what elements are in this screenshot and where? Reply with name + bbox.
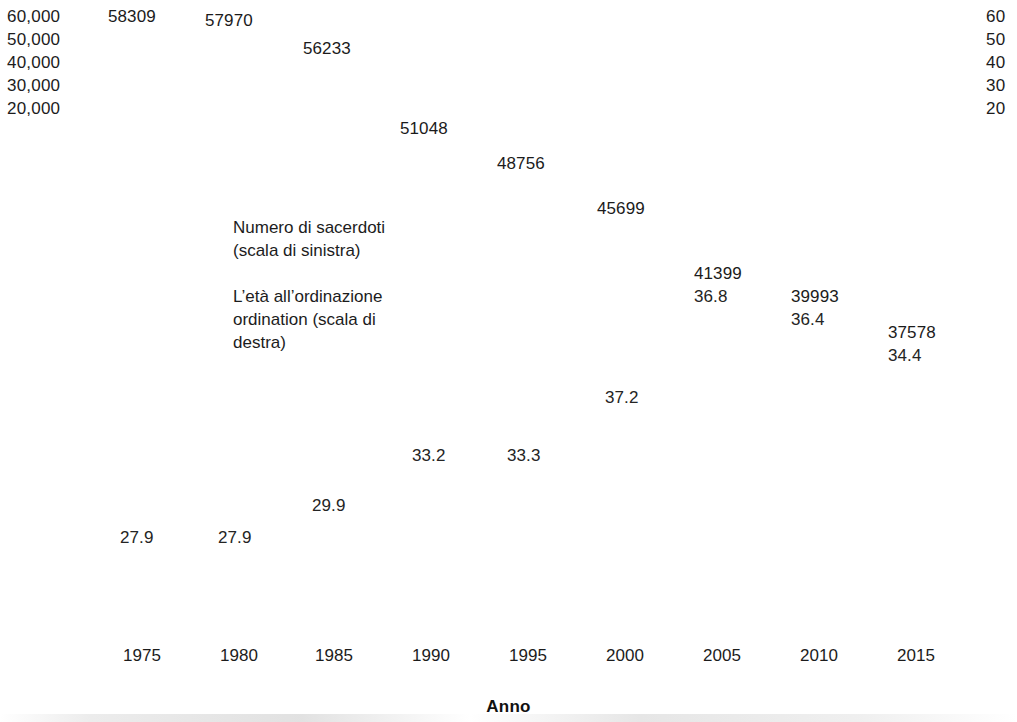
data-label-age-1995: 33.3 xyxy=(507,446,541,466)
data-label-age-1980: 27.9 xyxy=(218,528,252,548)
data-label-count-2000: 45699 xyxy=(597,199,645,219)
left-axis-tick-labels: 60,000 50,000 40,000 30,000 20,000 xyxy=(7,5,60,120)
x-axis-tick-2010: 2010 xyxy=(800,645,838,667)
right-axis-tick-40: 40 xyxy=(986,51,1005,74)
data-label-age-2000: 37.2 xyxy=(605,388,639,408)
x-axis-tick-1980: 1980 xyxy=(220,645,258,667)
right-axis-tick-30: 30 xyxy=(986,74,1005,97)
data-label-count-1985: 56233 xyxy=(303,39,351,59)
legend-entry-eta-ordinazione: L’età all’ordinazione ordination (scala … xyxy=(233,285,483,354)
left-axis-tick-30000: 30,000 xyxy=(7,74,60,97)
x-axis-title: Anno xyxy=(0,697,1017,717)
x-axis-tick-2005: 2005 xyxy=(703,645,741,667)
x-axis-tick-1975: 1975 xyxy=(123,645,161,667)
data-label-age-2015: 34.4 xyxy=(888,346,922,366)
x-axis-tick-2000: 2000 xyxy=(606,645,644,667)
data-label-count-2005: 41399 xyxy=(694,264,742,284)
x-axis-tick-1995: 1995 xyxy=(509,645,547,667)
right-axis-tick-50: 50 xyxy=(986,28,1005,51)
data-label-count-1975: 58309 xyxy=(108,7,156,27)
data-label-age-1975: 27.9 xyxy=(120,528,154,548)
right-axis-tick-20: 20 xyxy=(986,97,1005,120)
left-axis-tick-50000: 50,000 xyxy=(7,28,60,51)
x-axis-tick-2015: 2015 xyxy=(897,645,935,667)
data-label-age-2005: 36.8 xyxy=(694,287,728,307)
left-axis-tick-60000: 60,000 xyxy=(7,5,60,28)
data-label-count-2010: 39993 xyxy=(791,287,839,307)
x-axis-tick-1990: 1990 xyxy=(412,645,450,667)
data-label-age-1990: 33.2 xyxy=(412,446,446,466)
data-label-count-1980: 57970 xyxy=(205,11,253,31)
chart-container: 60,000 50,000 40,000 30,000 20,000 60 50… xyxy=(0,0,1017,722)
data-label-count-1995: 48756 xyxy=(497,154,545,174)
data-label-age-1985: 29.9 xyxy=(312,496,346,516)
data-label-age-2010: 36.4 xyxy=(791,310,825,330)
left-axis-tick-20000: 20,000 xyxy=(7,97,60,120)
legend-entry-numero-di-sacerdoti: Numero di sacerdoti (scala di sinistra) xyxy=(233,216,483,262)
chart-legend: Numero di sacerdoti (scala di sinistra) … xyxy=(233,216,483,354)
data-label-count-1990: 51048 xyxy=(400,119,448,139)
x-axis-tick-labels: 1975 1980 1985 1990 1995 2000 2005 2010 … xyxy=(0,645,1017,669)
right-axis-tick-labels: 60 50 40 30 20 xyxy=(986,5,1005,120)
data-label-count-2015: 37578 xyxy=(888,323,936,343)
right-axis-tick-60: 60 xyxy=(986,5,1005,28)
x-axis-tick-1985: 1985 xyxy=(315,645,353,667)
left-axis-tick-40000: 40,000 xyxy=(7,51,60,74)
